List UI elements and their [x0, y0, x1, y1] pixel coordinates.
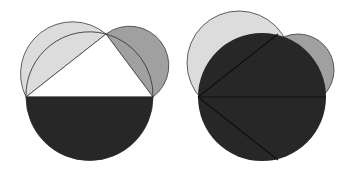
left-figure	[21, 22, 169, 161]
diagram-stage: Lune of Hippocrates — area comparison	[0, 0, 356, 172]
right-figure	[187, 11, 334, 161]
lune-diagram	[0, 0, 356, 172]
dark-semicircle	[26, 97, 153, 161]
